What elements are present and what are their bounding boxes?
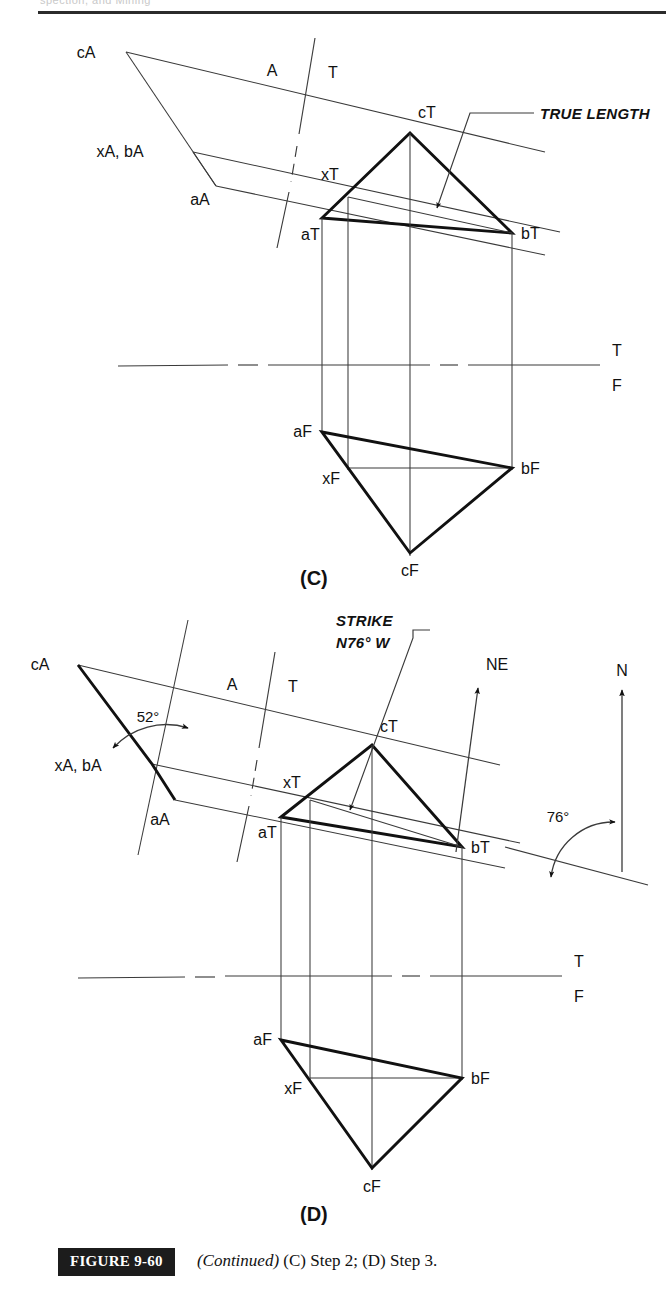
top-view-triangle-c: [322, 133, 512, 233]
ne-arrow-d: [456, 688, 478, 852]
fold-label-f-tf-c: F: [612, 377, 622, 394]
point-label-bT-c: bT: [521, 225, 540, 242]
point-label-cA-c: cA: [77, 44, 96, 61]
point-label-aF-d: aF: [253, 1031, 272, 1048]
figure-number-badge: FIGURE 9-60: [58, 1248, 175, 1276]
figure-page: spection, and Mining A T: [0, 0, 666, 1299]
true-length-leader-c: [437, 113, 534, 208]
point-label-xT-c: xT: [321, 166, 339, 183]
fold-label-t-tf-d: T: [574, 953, 584, 970]
caption-rest: (C) Step 2; (D) Step 3.: [279, 1251, 437, 1270]
fold-line-tf-c: [118, 365, 600, 366]
point-label-aT-d: aT: [258, 824, 277, 841]
compass-bearing-label: 76°: [547, 808, 570, 825]
figure-caption-text: (Continued) (C) Step 2; (D) Step 3.: [197, 1248, 437, 1271]
annotation-strike-line1: STRIKE: [336, 612, 393, 629]
annotation-dip-angle: 52°: [137, 708, 160, 725]
point-label-aA-c: aA: [190, 191, 210, 208]
aux-ray-xb-d: [152, 764, 520, 843]
point-label-bF-d: bF: [471, 1070, 490, 1087]
point-label-bF-c: bF: [521, 460, 540, 477]
annotation-ne-label: NE: [486, 656, 508, 673]
point-label-cT-c: cT: [418, 104, 436, 121]
annotation-strike-line2: N76° W: [336, 634, 391, 651]
point-label-xF-c: xF: [322, 470, 340, 487]
fold-line-tf-d: [78, 976, 562, 978]
aux-edge-xb-a: [193, 152, 216, 186]
point-label-aF-c: aF: [293, 423, 312, 440]
fold-label-t-d: T: [288, 678, 298, 695]
point-label-cF-d: cF: [363, 1178, 381, 1195]
panel-letter-d: (D): [300, 1203, 328, 1226]
compass-bearing-arc-d: [551, 822, 615, 877]
aux-edge-view-line-d: [78, 665, 175, 800]
point-label-aA-d: aA: [150, 811, 170, 828]
top-line-x-b-d: [310, 800, 462, 847]
front-view-triangle-c: [322, 432, 512, 553]
compass-strike-line-d: [505, 847, 648, 885]
figure-caption: FIGURE 9-60 (Continued) (C) Step 2; (D) …: [58, 1248, 437, 1276]
point-label-xAbA-d: xA, bA: [54, 757, 101, 774]
panel-c-drawing: A T cA xA, bA aA cT xT aT bT TRUE LENGT: [0, 0, 666, 600]
fold-label-f-tf-d: F: [574, 988, 584, 1005]
fold-line-at: [277, 38, 315, 248]
fold-label-t-c: T: [328, 64, 338, 81]
point-label-bT-d: bT: [471, 839, 490, 856]
compass-north-label: N: [616, 662, 628, 679]
point-label-cF-c: cF: [401, 562, 419, 579]
aux-ray-a-d: [175, 800, 505, 868]
caption-continued: (Continued): [197, 1251, 279, 1270]
fold-label-a-c: A: [267, 62, 278, 79]
point-label-aT-c: aT: [301, 226, 320, 243]
aux-ray-a: [216, 186, 545, 255]
point-label-cA-d: cA: [31, 656, 50, 673]
panel-letter-c: (C): [300, 567, 328, 590]
point-label-xAbA-c: xA, bA: [96, 143, 143, 160]
panel-d-drawing: 52° A T cA xA, bA aA cT xT aT b: [0, 610, 666, 1250]
point-label-xF-d: xF: [284, 1080, 302, 1097]
annotation-true-length: TRUE LENGTH: [540, 105, 651, 122]
fold-label-t-tf-c: T: [612, 342, 622, 359]
fold-label-a-d: A: [227, 676, 238, 693]
point-label-xT-d: xT: [283, 774, 301, 791]
